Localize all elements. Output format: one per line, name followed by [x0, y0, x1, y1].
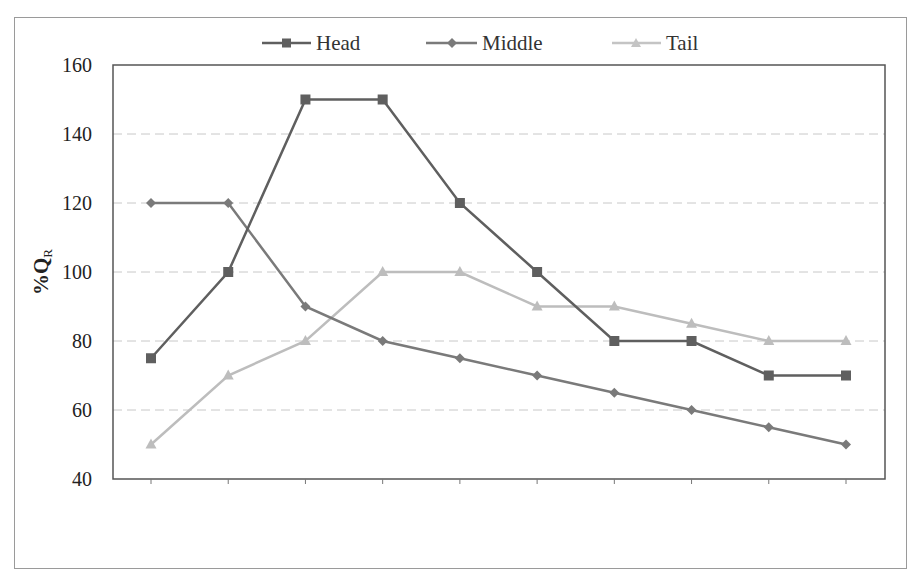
diamond-marker-icon — [609, 388, 619, 398]
diamond-marker-icon — [146, 198, 156, 208]
y-tick-label: 40 — [72, 468, 92, 490]
series-line — [151, 272, 846, 445]
square-marker-icon — [378, 95, 388, 105]
y-tick-label: 160 — [62, 54, 92, 76]
svg-text:%QR: %QR — [29, 249, 55, 295]
diamond-marker-icon — [455, 353, 465, 363]
square-marker-icon — [455, 198, 465, 208]
y-tick-label: 120 — [62, 192, 92, 214]
legend-label: Middle — [482, 31, 543, 55]
diamond-marker-icon — [764, 422, 774, 432]
y-axis-title: %QR — [29, 249, 55, 295]
square-marker-icon — [609, 336, 619, 346]
square-marker-icon — [223, 267, 233, 277]
y-axis-title-subscript: R — [40, 249, 55, 258]
square-marker-icon — [300, 95, 310, 105]
diamond-marker-icon — [687, 405, 697, 415]
diamond-marker-icon — [841, 440, 851, 450]
series-head — [146, 95, 851, 381]
diamond-marker-icon — [532, 371, 542, 381]
legend-item-tail: Tail — [612, 31, 699, 55]
y-axis-ticks: 160 140 120 100 80 60 40 — [62, 54, 92, 490]
square-marker-icon — [841, 371, 851, 381]
series-line — [151, 203, 846, 445]
diamond-marker-icon — [378, 336, 388, 346]
legend: Head Middle Tail — [262, 31, 699, 55]
y-axis-title-main: %Q — [29, 258, 53, 295]
legend-item-middle: Middle — [426, 31, 543, 55]
square-marker-icon — [532, 267, 542, 277]
series-middle — [146, 198, 851, 450]
plot-area — [113, 65, 885, 484]
diamond-marker-icon — [447, 38, 457, 48]
square-marker-icon — [282, 39, 291, 48]
line-chart: Head Middle Tail %QR 160 140 120 100 80 … — [0, 0, 922, 586]
legend-label: Head — [316, 31, 361, 55]
y-tick-label: 100 — [62, 261, 92, 283]
y-tick-label: 60 — [72, 399, 92, 421]
square-marker-icon — [764, 371, 774, 381]
y-tick-label: 140 — [62, 123, 92, 145]
y-tick-label: 80 — [72, 330, 92, 352]
legend-label: Tail — [666, 31, 699, 55]
legend-item-head: Head — [262, 31, 361, 55]
square-marker-icon — [687, 336, 697, 346]
square-marker-icon — [146, 353, 156, 363]
